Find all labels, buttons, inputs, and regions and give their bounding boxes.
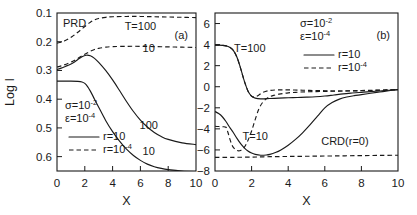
x-tick-label: 4 — [109, 177, 116, 189]
curve-label-dashed-CRD: CRD(r=0) — [321, 135, 368, 147]
annotations: T=1001010010 — [125, 20, 158, 157]
legend-entry-1: r=10-4 — [103, 142, 132, 155]
y-tick-label: 0.3 — [36, 64, 52, 76]
x-axis-title: X — [302, 194, 311, 208]
y-tick-label: 0 — [204, 81, 210, 93]
x-tick-label: 8 — [358, 177, 364, 189]
y-tick-label: 0.2 — [36, 36, 52, 48]
curve-solid-T10 — [215, 90, 398, 156]
x-tick-label: 6 — [322, 177, 328, 189]
panel-b: 0246810X−8−6−4−20246(b)T=100T=10CRD(r=0)… — [197, 13, 405, 208]
x-tick-label: 8 — [165, 177, 171, 189]
y-axis-title: Log I — [3, 78, 17, 106]
legend-entry-0: r=10 — [103, 130, 125, 142]
legend-param-0: σ=10-2 — [300, 16, 332, 29]
plot-title: PRD — [63, 17, 86, 29]
legend: σ=10-2ε=10-4r=10r=10-4 — [300, 16, 367, 73]
y-tick-label: 6 — [204, 18, 210, 30]
y-axis: 0.10.20.30.40.50.6Log I — [3, 7, 62, 163]
y-tick-label: −4 — [197, 123, 211, 135]
legend-entry-1: r=10-4 — [338, 60, 367, 73]
curve-solid-T10 — [57, 81, 196, 172]
y-tick-label: −8 — [197, 165, 210, 177]
legend-entry-0: r=10 — [338, 48, 360, 60]
curve-label-dashed-T10: 10 — [143, 42, 155, 54]
x-tick-label: 10 — [190, 177, 203, 189]
x-tick-label: 4 — [285, 177, 292, 189]
legend-param-0: σ=10-2 — [65, 98, 97, 111]
curve-label-dashed-T100: T=100 — [125, 20, 157, 32]
y-tick-label: 4 — [204, 39, 211, 51]
x-tick-label: 2 — [248, 177, 254, 189]
curve-label-solid-T100: 100 — [140, 119, 158, 131]
panel-a: 0246810X0.10.20.30.40.50.6Log I(a)PRDT=1… — [3, 7, 202, 208]
figure-container: 0246810X0.10.20.30.40.50.6Log I(a)PRDT=1… — [0, 0, 417, 215]
curve-label-solid-T100: T=100 — [234, 42, 266, 54]
curve-dashed-CRD — [215, 155, 398, 157]
y-axis: −8−6−4−20246 — [197, 18, 220, 177]
x-tick-label: 2 — [82, 177, 88, 189]
x-tick-label: 10 — [392, 177, 405, 189]
curve-label-solid-T10: T=10 — [243, 130, 268, 142]
x-axis: 0246810X — [54, 166, 203, 208]
y-tick-label: 0.1 — [36, 7, 52, 19]
x-axis: 0246810X — [212, 166, 405, 208]
curve-label-solid-T10: 10 — [143, 145, 155, 157]
y-tick-label: −6 — [197, 144, 210, 156]
legend-param-1: ε=10-4 — [65, 111, 95, 124]
y-tick-label: −2 — [197, 102, 210, 114]
y-tick-label: 0.4 — [36, 93, 53, 105]
y-tick-label: 0.5 — [36, 122, 52, 134]
panel-label: (b) — [377, 29, 390, 41]
panel-label: (a) — [175, 29, 188, 41]
y-tick-label: 2 — [204, 60, 210, 72]
legend-param-1: ε=10-4 — [300, 29, 330, 42]
x-axis-title: X — [122, 194, 131, 208]
figure-svg: 0246810X0.10.20.30.40.50.6Log I(a)PRDT=1… — [0, 0, 417, 215]
y-tick-label: 0.6 — [36, 151, 52, 163]
x-tick-label: 0 — [212, 177, 218, 189]
curve-dashed-T10 — [57, 46, 196, 67]
x-tick-label: 6 — [137, 177, 143, 189]
x-tick-label: 0 — [54, 177, 60, 189]
